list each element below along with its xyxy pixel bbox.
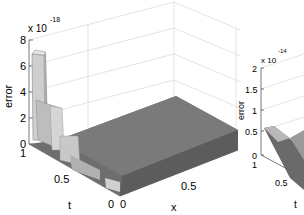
z-exponent: -14	[278, 46, 287, 57]
t-axis-label: t	[68, 200, 71, 211]
z-tick-0.5: 0.5	[245, 127, 258, 138]
x-axis-label: x	[171, 202, 177, 213]
z-tick-6: 6	[20, 61, 26, 72]
z-axis-label: error	[236, 101, 247, 120]
z-tick-4: 4	[20, 87, 26, 98]
left-surface-plot: x 10 -18 8 6 4 2 0 error 1 0.5 0 t 0 0.5…	[0, 0, 240, 215]
x-tick-0: 0	[120, 199, 126, 210]
z-multiplier: x 10	[28, 23, 47, 34]
right-surface-plot: x 10 -14 2 1.5 1 0.5 0 error 1 0.5 t	[230, 0, 304, 215]
t-tick-0: 0	[108, 199, 114, 210]
z-tick-1: 1	[252, 106, 257, 117]
z-axis-label: error	[3, 85, 14, 108]
t-tick-0.5: 0.5	[54, 174, 69, 185]
z-multiplier: x 10	[261, 55, 276, 66]
t-tick-1: 1	[20, 148, 26, 159]
t-axis-label: t	[294, 199, 297, 210]
z-tick-1.5: 1.5	[245, 85, 258, 96]
x-tick-0.5: 0.5	[181, 181, 196, 192]
t-tick-0.5: 0.5	[275, 178, 288, 189]
z-tick-2: 2	[252, 64, 257, 75]
t-tick-1: 1	[252, 160, 257, 171]
z-tick-2: 2	[20, 113, 26, 124]
z-tick-8: 8	[20, 35, 26, 46]
z-exponent: -18	[50, 14, 60, 25]
